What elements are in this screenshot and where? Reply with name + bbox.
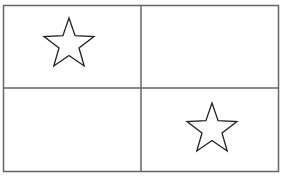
panama-flag-outline [0,0,282,177]
